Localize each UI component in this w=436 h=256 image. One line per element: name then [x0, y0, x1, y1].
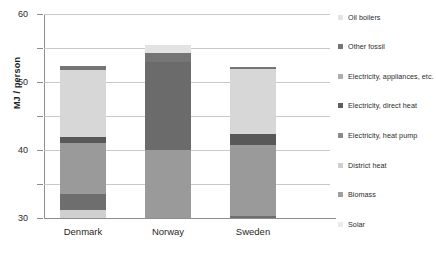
legend-item[interactable]: Electricity, appliances, etc. [338, 70, 434, 82]
legend-label: Electricity, direct heat [348, 101, 417, 110]
y-axis-tick: 40 [37, 82, 43, 83]
bar-denmark[interactable] [60, 66, 106, 218]
plot-area: 0102030405060 DenmarkNorwaySweden [44, 14, 330, 218]
legend-item[interactable]: Biomass [338, 189, 376, 201]
legend-item[interactable]: Other fossil [338, 41, 385, 53]
bar-sweden[interactable] [230, 67, 276, 218]
gridline [44, 14, 330, 15]
legend-swatch-icon [338, 192, 343, 197]
legend-label: Solar [348, 220, 365, 229]
bar-segment[interactable] [230, 216, 276, 218]
bar-segment[interactable] [230, 134, 276, 145]
y-axis-tick-label: 50 [18, 77, 28, 87]
bar-segment[interactable] [60, 143, 106, 193]
stacked-bar-chart: MJ / person 0102030405060 DenmarkNorwayS… [0, 0, 436, 256]
bar-segment[interactable] [145, 150, 191, 218]
bar-segment[interactable] [60, 210, 106, 219]
y-axis-tick-label: 40 [18, 145, 28, 155]
y-axis-tick: 30 [37, 116, 43, 117]
legend-swatch-icon [338, 15, 343, 20]
legend-item[interactable]: Electricity, direct heat [338, 100, 417, 112]
bar-segment[interactable] [230, 145, 276, 216]
legend-label: Electricity, heat pump [348, 131, 417, 140]
y-axis-tick-label: 30 [18, 213, 28, 223]
bar-norway[interactable] [145, 45, 191, 218]
chart-legend: Oil boilersOther fossilElectricity, appl… [338, 6, 434, 250]
legend-swatch-icon [338, 163, 343, 168]
legend-label: Other fossil [348, 42, 385, 51]
legend-swatch-icon [338, 74, 343, 79]
legend-label: District heat [348, 161, 387, 170]
y-axis-tick: 10 [37, 184, 43, 185]
legend-swatch-icon [338, 222, 343, 227]
legend-item[interactable]: Solar [338, 218, 365, 230]
x-axis-label-sweden: Sweden [198, 226, 308, 237]
bar-segment[interactable] [145, 45, 191, 52]
legend-label: Biomass [348, 190, 376, 199]
legend-swatch-icon [338, 133, 343, 138]
y-axis-tick: 20 [37, 150, 43, 151]
bar-segment[interactable] [230, 69, 276, 134]
legend-item[interactable]: Electricity, heat pump [338, 129, 417, 141]
legend-item[interactable]: District heat [338, 159, 387, 171]
x-axis-line [44, 218, 336, 219]
legend-swatch-icon [338, 103, 343, 108]
legend-label: Electricity, appliances, etc. [348, 72, 434, 81]
y-axis-tick-label: 60 [18, 9, 28, 19]
y-axis-tick: 0 [37, 218, 43, 219]
legend-item[interactable]: Oil boilers [338, 11, 381, 23]
bar-segment[interactable] [145, 53, 191, 62]
legend-label: Oil boilers [348, 13, 381, 22]
y-axis-tick: 60 [37, 14, 43, 15]
bar-segment[interactable] [145, 62, 191, 150]
bar-segment[interactable] [60, 194, 106, 210]
legend-swatch-icon [338, 44, 343, 49]
bar-segment[interactable] [60, 70, 106, 136]
y-axis-tick: 50 [37, 48, 43, 49]
